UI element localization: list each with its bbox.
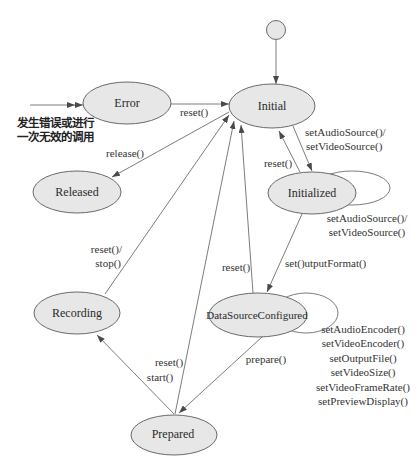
label-dsc-loop-line1: setAudioEncoder() xyxy=(321,323,405,336)
label-dsc-to-initial: reset() xyxy=(222,261,250,274)
error-annotation-line1: 发生错误或进行 xyxy=(16,116,95,130)
label-initialized-loop-line2: setVideoSource() xyxy=(329,226,406,239)
label-dsc-loop-line2: setVideoEncoder() xyxy=(322,337,405,350)
label-recording-to-initial-line1: reset()/ xyxy=(91,243,123,256)
label-initialized-loop-line1: setAudioSource()/ xyxy=(327,212,409,225)
label-dsc-loop-line4: setVideoSize() xyxy=(331,366,396,379)
label-recording-to-initial-line2: stop() xyxy=(95,257,121,270)
label-dsc-loop-line3: setOutputFile() xyxy=(329,352,397,365)
state-label-prepared: Prepared xyxy=(152,427,195,441)
label-error-to-initial: reset() xyxy=(180,106,208,119)
state-label-recording: Recording xyxy=(52,306,102,320)
state-label-error: Error xyxy=(114,96,139,110)
label-dsc-loop-line5: setVideoFrameRate() xyxy=(316,381,410,394)
transition-initialized-to-dsc xyxy=(267,214,302,292)
label-dsc-to-prepared: prepare() xyxy=(246,353,287,366)
state-label-data-source-configured: DataSourceConfigured xyxy=(206,309,308,321)
state-diagram: Initial Error Released Initialized DataS… xyxy=(0,0,419,475)
label-initial-to-released: release() xyxy=(106,147,144,160)
state-label-released: Released xyxy=(55,185,98,199)
label-initial-to-initialized-line2: setVideoSource() xyxy=(306,140,383,153)
error-annotation-line2: 一次无效的调用 xyxy=(17,130,94,144)
transition-dsc-to-prepared xyxy=(179,337,262,413)
label-dsc-loop-line6: setPreviewDisplay() xyxy=(318,395,408,408)
state-label-initialized: Initialized xyxy=(288,186,337,200)
label-initialized-to-initial: reset() xyxy=(264,157,292,170)
label-prepared-to-recording: start() xyxy=(147,371,174,384)
transition-recording-to-initial xyxy=(105,115,229,294)
label-initialized-to-dsc: set()utputFormat() xyxy=(285,257,367,270)
label-prepared-to-initial: reset() xyxy=(155,356,183,369)
label-initial-to-initialized-line1: setAudioSource()/ xyxy=(305,126,387,139)
start-state-node xyxy=(267,21,286,40)
state-label-initial: Initial xyxy=(258,99,287,113)
